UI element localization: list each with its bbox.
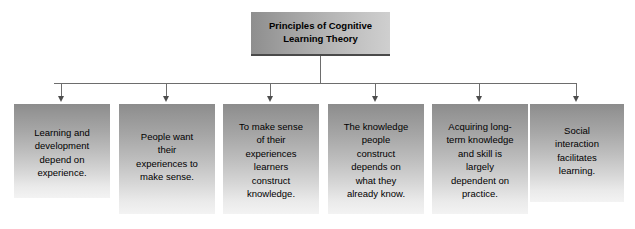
connector-drop-5: [479, 83, 480, 97]
arrowhead-icon-4: [372, 96, 378, 102]
connector-drop-6: [576, 83, 577, 97]
principle-node-3: To make senseof theirexperienceslearners…: [223, 104, 319, 214]
connector-root-stem: [320, 56, 321, 83]
arrowhead-icon-5: [476, 96, 482, 102]
arrowhead-icon-1: [58, 96, 64, 102]
principle-node-5-label: Acquiring long-term knowledgeand skill i…: [432, 120, 528, 201]
principle-node-5: Acquiring long-term knowledgeand skill i…: [432, 104, 528, 214]
principle-node-6-label: Socialinteractionfacilitateslearning.: [530, 124, 624, 178]
principle-node-1-label: Learning anddevelopmentdepend onexperien…: [14, 126, 110, 180]
root-node-label-line1: Principles of Cognitive: [269, 20, 372, 31]
cognitive-learning-theory-diagram: Principles of Cognitive Learning Theory …: [0, 0, 635, 229]
principle-node-1: Learning anddevelopmentdepend onexperien…: [14, 104, 110, 198]
arrowhead-icon-2: [163, 96, 169, 102]
principle-node-3-label: To make senseof theirexperienceslearners…: [223, 120, 319, 201]
arrowhead-icon-6: [573, 96, 579, 102]
connector-horizontal-bus: [54, 83, 577, 84]
principle-node-2: People wanttheirexperiences tomake sense…: [119, 104, 215, 214]
root-node-label: Principles of Cognitive Learning Theory: [263, 20, 378, 46]
root-node-principles: Principles of Cognitive Learning Theory: [251, 12, 390, 56]
root-node-label-line2: Learning Theory: [283, 33, 357, 44]
connector-drop-2: [166, 83, 167, 97]
principle-node-4-label: The knowledgepeopleconstructdepends onwh…: [328, 120, 424, 201]
connector-drop-4: [375, 83, 376, 97]
connector-drop-1: [61, 83, 62, 97]
principle-node-4: The knowledgepeopleconstructdepends onwh…: [328, 104, 424, 214]
arrowhead-icon-3: [267, 96, 273, 102]
principle-node-2-label: People wanttheirexperiences tomake sense…: [119, 130, 215, 184]
principle-node-6: Socialinteractionfacilitateslearning.: [530, 104, 624, 202]
connector-drop-3: [270, 83, 271, 97]
